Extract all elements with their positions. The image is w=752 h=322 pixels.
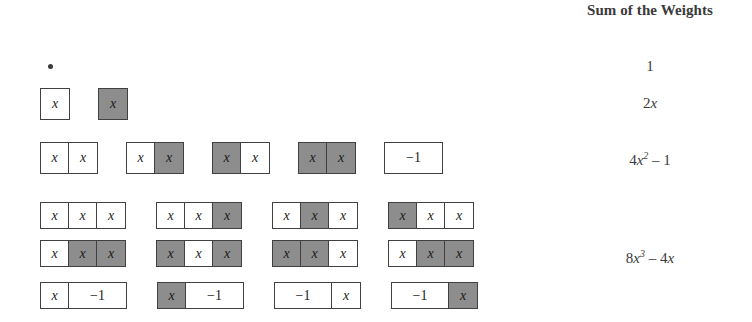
unshaded-tile[interactable]: x — [389, 241, 417, 266]
shaded-tile[interactable]: x — [301, 203, 329, 228]
unshaded-tile[interactable]: x — [41, 283, 69, 308]
shaded-tile[interactable]: x — [299, 143, 327, 173]
shaded-tile[interactable]: x — [449, 283, 477, 308]
sum-tail: – 1 — [648, 152, 671, 168]
shaded-tile[interactable]: x — [158, 283, 186, 308]
unshaded-tile[interactable]: x — [41, 89, 69, 119]
unit-dot — [48, 64, 53, 69]
unshaded-tile[interactable]: x — [273, 203, 301, 228]
shaded-tile[interactable]: x — [99, 89, 127, 119]
tile-group[interactable]: xxx — [388, 202, 474, 229]
tile-group-strip: xx — [40, 88, 128, 120]
sum-coefficient: 4 — [629, 152, 637, 168]
tile-group[interactable]: xxx — [156, 202, 242, 229]
sum-of-weights-value: 1 — [560, 58, 740, 75]
unshaded-tile[interactable]: −1 — [275, 283, 332, 308]
shaded-tile[interactable]: x — [157, 241, 185, 266]
unshaded-tile[interactable]: x — [41, 203, 69, 228]
shaded-tile[interactable]: x — [155, 143, 183, 173]
unshaded-tile[interactable]: x — [329, 203, 357, 228]
tile-group[interactable]: xxx — [272, 202, 358, 229]
sum-of-weights-value: 8x3 – 4x — [560, 248, 740, 267]
tile-group[interactable]: x — [98, 88, 128, 120]
unshaded-tile[interactable]: x — [185, 241, 213, 266]
unshaded-tile[interactable]: x — [417, 203, 445, 228]
tile-group[interactable]: xx — [40, 142, 98, 174]
unshaded-tile[interactable]: x — [97, 203, 125, 228]
unshaded-tile[interactable]: x — [445, 203, 473, 228]
tile-group-strip: x−1x−1−1x−1x — [40, 282, 478, 309]
sum-of-weights-value: 4x2 – 1 — [560, 150, 740, 169]
shaded-tile[interactable]: x — [301, 241, 329, 266]
tile-group[interactable]: x−1 — [157, 282, 244, 309]
unshaded-tile[interactable]: −1 — [392, 283, 449, 308]
sum-tail: – 4x — [645, 250, 674, 266]
shaded-tile[interactable]: x — [445, 241, 473, 266]
shaded-tile[interactable]: x — [213, 203, 241, 228]
shaded-tile[interactable]: x — [417, 241, 445, 266]
tile-group[interactable]: −1x — [274, 282, 361, 309]
tile-group[interactable]: xxx — [40, 202, 126, 229]
tile-group[interactable]: xx — [212, 142, 270, 174]
unshaded-tile[interactable]: x — [41, 143, 69, 173]
tile-group-strip: xxxxxxxxxxxx — [40, 240, 474, 267]
unshaded-tile[interactable]: −1 — [69, 283, 126, 308]
unshaded-tile[interactable]: x — [241, 143, 269, 173]
unshaded-tile[interactable]: −1 — [186, 283, 243, 308]
tile-group[interactable]: x−1 — [40, 282, 127, 309]
shaded-tile[interactable]: x — [273, 241, 301, 266]
unshaded-tile[interactable]: x — [41, 241, 69, 266]
shaded-tile[interactable]: x — [389, 203, 417, 228]
tile-group-strip: xxxxxxxxxxxx — [40, 202, 474, 229]
sum-variable: x — [633, 250, 640, 266]
tile-group[interactable]: xxx — [388, 240, 474, 267]
tile-group[interactable]: −1x — [391, 282, 478, 309]
sum-of-weights-header: Sum of the Weights — [560, 2, 740, 19]
shaded-tile[interactable]: x — [97, 241, 125, 266]
unshaded-tile[interactable]: x — [329, 241, 357, 266]
tile-group[interactable]: −1 — [384, 142, 443, 174]
unshaded-tile[interactable]: x — [127, 143, 155, 173]
unshaded-tile[interactable]: x — [332, 283, 360, 308]
shaded-tile[interactable]: x — [213, 241, 241, 266]
shaded-tile[interactable]: x — [69, 241, 97, 266]
shaded-tile[interactable]: x — [213, 143, 241, 173]
sum-of-weights-value: 2x — [560, 95, 740, 112]
tile-group[interactable]: x — [40, 88, 70, 120]
unshaded-tile[interactable]: x — [69, 143, 97, 173]
tile-group[interactable]: xxx — [156, 240, 242, 267]
unshaded-tile[interactable]: −1 — [385, 143, 442, 173]
tile-group[interactable]: xxx — [272, 240, 358, 267]
sum-variable: x — [650, 95, 657, 111]
tile-group[interactable]: xx — [126, 142, 184, 174]
tile-group-strip: xxxxxxxx−1 — [40, 142, 443, 174]
tile-group[interactable]: xxx — [40, 240, 126, 267]
unshaded-tile[interactable]: x — [69, 203, 97, 228]
shaded-tile[interactable]: x — [327, 143, 355, 173]
unshaded-tile[interactable]: x — [185, 203, 213, 228]
unshaded-tile[interactable]: x — [157, 203, 185, 228]
tile-group[interactable]: xx — [298, 142, 356, 174]
